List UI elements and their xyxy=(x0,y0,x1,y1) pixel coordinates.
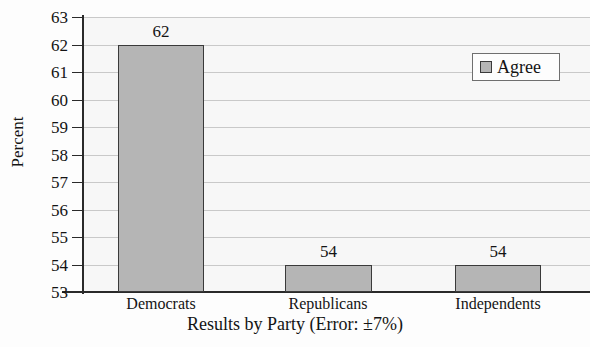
legend-label-agree: Agree xyxy=(497,57,541,78)
chart-title-clipped xyxy=(0,0,590,11)
y-tick-label: 59 xyxy=(26,119,68,136)
bar-independents xyxy=(455,265,541,293)
y-tick-label: 56 xyxy=(26,202,68,219)
y-axis-title: Percent xyxy=(8,97,28,187)
category-label-independents: Independents xyxy=(438,295,558,313)
bar-chart: Percent 63 62 61 60 59 58 57 56 55 54 53… xyxy=(0,0,590,347)
y-tick-label: 55 xyxy=(26,229,68,246)
y-tick-label: 54 xyxy=(26,257,68,274)
x-axis-title: Results by Party (Error: ±7%) xyxy=(0,314,590,335)
y-tick-label: 57 xyxy=(26,174,68,191)
y-tick-mark xyxy=(72,72,83,73)
y-tick-mark xyxy=(72,210,83,211)
y-tick-mark xyxy=(72,100,83,101)
y-tick-mark xyxy=(72,45,83,46)
y-tick-mark xyxy=(72,127,83,128)
grid-line xyxy=(83,17,590,18)
legend-swatch-agree xyxy=(480,61,492,73)
category-label-republicans: Republicans xyxy=(268,295,388,313)
legend: Agree xyxy=(472,53,560,81)
y-tick-label: 62 xyxy=(26,37,68,54)
y-tick-label: 60 xyxy=(26,92,68,109)
bar-value-label-independents: 54 xyxy=(455,242,541,262)
y-tick-label: 63 xyxy=(26,9,68,26)
bar-republicans xyxy=(285,265,372,293)
y-tick-mark xyxy=(72,265,83,266)
category-label-democrats: Democrats xyxy=(101,295,221,313)
y-tick-mark xyxy=(72,292,83,293)
y-tick-mark xyxy=(72,237,83,238)
bar-value-label-democrats: 62 xyxy=(118,22,204,42)
y-tick-mark xyxy=(72,17,83,18)
y-tick-label: 61 xyxy=(26,64,68,81)
bar-value-label-republicans: 54 xyxy=(285,242,372,262)
y-tick-label: 53 xyxy=(26,284,68,301)
bar-democrats xyxy=(118,45,204,293)
y-tick-mark xyxy=(72,182,83,183)
y-tick-mark xyxy=(72,155,83,156)
y-tick-label: 58 xyxy=(26,147,68,164)
